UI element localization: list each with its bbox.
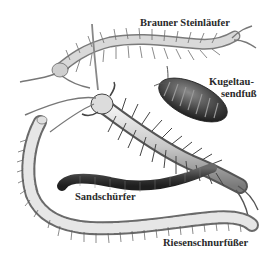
- illustration-artwork: [0, 0, 274, 268]
- myriapod-illustration: Brauner Steinläufer Kugeltau- sendfuß Sa…: [0, 0, 274, 268]
- label-riesenschnurfuesser: Riesenschnurfüßer: [163, 237, 248, 248]
- label-sandschuerfer: Sandschürfer: [75, 191, 136, 202]
- label-kugeltausendfuss-line2: sendfuß: [221, 88, 257, 99]
- label-brauner-steinlaeufer: Brauner Steinläufer: [140, 17, 230, 28]
- sandschuerfer-figure: [62, 168, 212, 192]
- label-kugeltausendfuss-line1: Kugeltau-: [209, 76, 254, 87]
